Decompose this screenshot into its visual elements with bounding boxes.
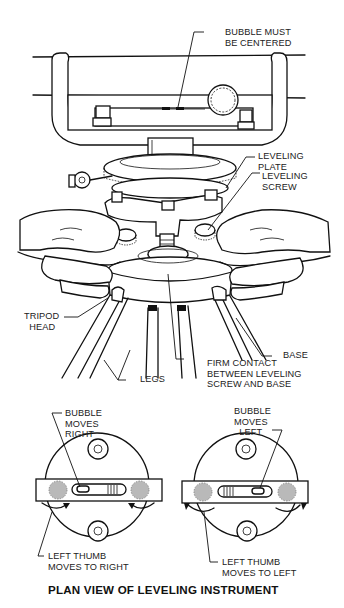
figure-title: PLAN VIEW OF LEVELING INSTRUMENT xyxy=(48,583,279,596)
label-legs: LEGS xyxy=(140,374,165,385)
label-bubble-moves-right: BUBBLE MOVES RIGHT xyxy=(65,408,102,440)
label-leveling-plate: LEVELING PLATE xyxy=(258,151,304,172)
label-leveling-screw: LEVELING SCREW xyxy=(262,171,308,192)
label-tripod-head: TRIPOD HEAD xyxy=(24,311,59,332)
label-firm-contact: FIRM CONTACT BETWEEN LEVELING SCREW AND … xyxy=(207,358,302,390)
clamp-screw xyxy=(69,172,112,188)
plan-view-right xyxy=(182,430,308,562)
label-left-thumb-moves-right: LEFT THUMB MOVES TO RIGHT xyxy=(48,551,129,572)
leveling-instrument-diagram: BUBBLE MUST BE CENTERED LEVELING PLATE L… xyxy=(0,0,344,608)
label-bubble-moves-left: BUBBLE MOVES LEFT xyxy=(234,406,271,438)
instrument-illustration xyxy=(0,0,344,608)
label-bubble-must-be-centered: BUBBLE MUST BE CENTERED xyxy=(225,27,291,48)
label-left-thumb-moves-left: LEFT THUMB MOVES TO LEFT xyxy=(222,557,296,578)
telescope xyxy=(33,53,305,156)
